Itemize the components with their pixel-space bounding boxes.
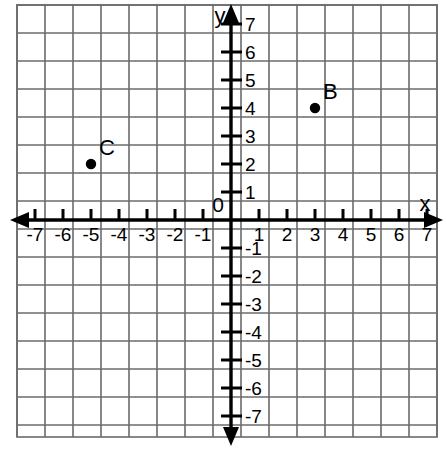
x-tick-label: 2 — [282, 224, 293, 245]
point-label-c: C — [99, 135, 115, 160]
x-tick-label: -1 — [195, 224, 212, 245]
origin-label: 0 — [212, 193, 224, 216]
x-tick-label: -5 — [83, 224, 100, 245]
y-tick-label: -7 — [245, 406, 262, 427]
y-tick-label: -1 — [245, 238, 262, 259]
x-axis-label: x — [420, 191, 431, 216]
x-tick-label: 6 — [394, 224, 405, 245]
coordinate-plane-figure: -7-6-5-4-3-2-112345677654321-1-2-3-4-5-6… — [0, 0, 447, 450]
y-tick-label: 2 — [245, 154, 256, 175]
x-tick-label: 5 — [366, 224, 377, 245]
x-tick-label: -6 — [55, 224, 72, 245]
y-tick-label: 6 — [245, 42, 256, 63]
axes-group — [10, 4, 443, 446]
data-points: BC — [86, 79, 338, 169]
x-tick-label: -3 — [139, 224, 156, 245]
x-tick-label: -4 — [111, 224, 128, 245]
y-tick-label: 4 — [245, 98, 256, 119]
point-marker-c — [86, 159, 96, 169]
point-marker-b — [310, 103, 320, 113]
y-tick-label: -5 — [245, 350, 262, 371]
x-tick-label: -7 — [27, 224, 44, 245]
y-tick-label: 7 — [245, 14, 256, 35]
coordinate-plane-svg: -7-6-5-4-3-2-112345677654321-1-2-3-4-5-6… — [0, 0, 447, 450]
x-tick-label: 3 — [310, 224, 321, 245]
x-tick-label: 7 — [422, 224, 433, 245]
y-tick-label: -3 — [245, 294, 262, 315]
y-tick-label: -2 — [245, 266, 262, 287]
data-point-b: B — [310, 79, 338, 113]
x-tick-label: -2 — [167, 224, 184, 245]
y-tick-label: 3 — [245, 126, 256, 147]
y-tick-label: -4 — [245, 322, 262, 343]
point-label-b: B — [323, 79, 338, 104]
y-tick-label: 1 — [245, 182, 256, 203]
y-tick-label: 5 — [245, 70, 256, 91]
x-tick-label: 4 — [338, 224, 349, 245]
y-axis-label: y — [215, 3, 226, 28]
y-tick-label: -6 — [245, 378, 262, 399]
